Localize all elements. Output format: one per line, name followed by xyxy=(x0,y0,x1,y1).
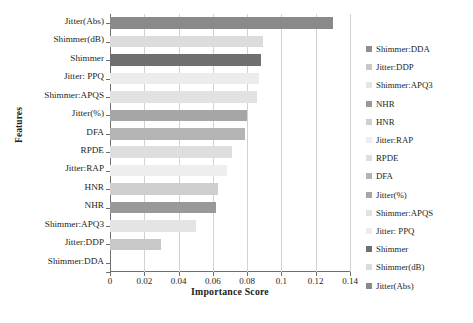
y-axis-category-label: DFA xyxy=(86,127,104,137)
legend-item[interactable]: Shimmer xyxy=(366,240,472,258)
legend-swatch-icon xyxy=(366,264,372,270)
legend-label: Shimmer:APQ3 xyxy=(376,80,433,90)
gridline xyxy=(350,14,351,272)
bar-row: Shimmer xyxy=(110,51,350,69)
y-axis-category-label: Shimmer:DDA xyxy=(48,256,104,266)
y-axis-category-label: Jitter: PPQ xyxy=(64,71,104,81)
legend-swatch-icon xyxy=(366,46,372,52)
bar xyxy=(110,202,216,214)
y-axis-category-label: RPDE xyxy=(81,145,105,155)
legend-label: Jitter: PPQ xyxy=(376,226,414,236)
bar-row: Jitter: PPQ xyxy=(110,69,350,87)
legend-label: Jitter(%) xyxy=(376,190,407,200)
x-axis-tick-label: 0.14 xyxy=(330,276,370,286)
bar-row: Jitter:DDP xyxy=(110,235,350,253)
bar xyxy=(110,36,263,48)
legend-label: NHR xyxy=(376,99,395,109)
legend-label: RPDE xyxy=(376,153,399,163)
bar xyxy=(110,220,196,232)
legend-swatch-icon xyxy=(366,246,372,252)
y-axis-category-label: Shimmer xyxy=(70,53,104,63)
legend-label: Jitter(Abs) xyxy=(376,281,414,291)
bar-row: DFA xyxy=(110,125,350,143)
bar xyxy=(110,128,245,140)
bar-row: Shimmer:APQ3 xyxy=(110,217,350,235)
legend-label: Shimmer xyxy=(376,244,408,254)
bar xyxy=(110,17,333,29)
legend-label: DFA xyxy=(376,171,393,181)
legend-swatch-icon xyxy=(366,101,372,107)
bar xyxy=(110,183,218,195)
legend-swatch-icon xyxy=(366,155,372,161)
y-axis-category-label: NHR xyxy=(85,200,104,210)
legend-label: Shimmer:APQS xyxy=(376,208,433,218)
bar-row: Jitter:RAP xyxy=(110,161,350,179)
bar-row: Jitter(%) xyxy=(110,106,350,124)
bar xyxy=(110,73,259,85)
y-axis-category-label: Jitter:RAP xyxy=(65,163,104,173)
legend-swatch-icon xyxy=(366,283,372,289)
bar-row: HNR xyxy=(110,180,350,198)
legend-item[interactable]: Jitter(Abs) xyxy=(366,276,472,294)
bar xyxy=(110,146,232,158)
legend-swatch-icon xyxy=(366,210,372,216)
bar-row: Shimmer:APQS xyxy=(110,88,350,106)
y-axis-category-label: Shimmer:APQ3 xyxy=(45,219,104,229)
legend-label: HNR xyxy=(376,117,395,127)
bar xyxy=(110,54,261,66)
y-axis-category-label: Jitter(%) xyxy=(72,108,104,118)
legend-swatch-icon xyxy=(366,64,372,70)
x-axis-title: Importance Score xyxy=(110,286,350,297)
legend-item[interactable]: HNR xyxy=(366,113,472,131)
bar xyxy=(110,239,161,251)
legend-item[interactable]: NHR xyxy=(366,95,472,113)
bar-row: NHR xyxy=(110,198,350,216)
y-axis-category-label: HNR xyxy=(85,182,104,192)
legend-item[interactable]: Jitter(%) xyxy=(366,186,472,204)
legend-label: Shimmer(dB) xyxy=(376,262,424,272)
legend-item[interactable]: DFA xyxy=(366,167,472,185)
y-axis-category-label: Shimmer:APQS xyxy=(44,90,104,100)
legend-swatch-icon xyxy=(366,228,372,234)
legend-item[interactable]: Shimmer:APQ3 xyxy=(366,76,472,94)
legend-label: Shimmer:DDA xyxy=(376,44,430,54)
legend-item[interactable]: Shimmer(dB) xyxy=(366,258,472,276)
legend-swatch-icon xyxy=(366,173,372,179)
legend-item[interactable]: Jitter:DDP xyxy=(366,58,472,76)
bar xyxy=(110,165,227,177)
legend-item[interactable]: Shimmer:APQS xyxy=(366,204,472,222)
y-axis-category-label: Jitter:DDP xyxy=(65,237,104,247)
legend-swatch-icon xyxy=(366,82,372,88)
y-axis-category-label: Jitter(Abs) xyxy=(65,16,104,26)
bar-row: Shimmer:DDA xyxy=(110,254,350,272)
legend-item[interactable]: RPDE xyxy=(366,149,472,167)
y-axis-category-label: Shimmer(dB) xyxy=(53,34,104,44)
legend-item[interactable]: Shimmer:DDA xyxy=(366,40,472,58)
bar-row: RPDE xyxy=(110,143,350,161)
y-axis-title: Features xyxy=(14,80,24,170)
bar-row: Jitter(Abs) xyxy=(110,14,350,32)
legend-swatch-icon xyxy=(366,119,372,125)
chart-legend: Shimmer:DDAJitter:DDPShimmer:APQ3NHRHNRJ… xyxy=(366,40,472,295)
plot-area: Jitter(Abs)Shimmer(dB)ShimmerJitter: PPQ… xyxy=(110,14,350,272)
legend-item[interactable]: Jitter:RAP xyxy=(366,131,472,149)
bar xyxy=(110,91,257,103)
legend-item[interactable]: Jitter: PPQ xyxy=(366,222,472,240)
legend-label: Jitter:RAP xyxy=(376,135,413,145)
bar xyxy=(110,110,247,122)
legend-swatch-icon xyxy=(366,137,372,143)
bar-row: Shimmer(dB) xyxy=(110,32,350,50)
legend-swatch-icon xyxy=(366,192,372,198)
legend-label: Jitter:DDP xyxy=(376,62,414,72)
importance-score-bar-chart: Features Jitter(Abs)Shimmer(dB)ShimmerJi… xyxy=(0,0,473,323)
